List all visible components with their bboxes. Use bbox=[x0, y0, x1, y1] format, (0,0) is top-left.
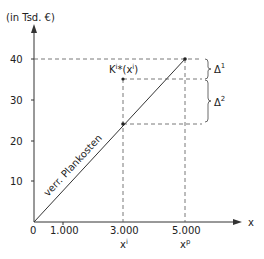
x-axis-arrow-icon bbox=[233, 219, 242, 225]
y-tick-30: 30 bbox=[10, 95, 23, 106]
brace-delta2 bbox=[205, 80, 211, 122]
plan-cost-line bbox=[34, 59, 185, 222]
point-xp bbox=[183, 57, 187, 61]
brace-delta1 bbox=[205, 59, 211, 79]
point-kix bbox=[121, 77, 124, 80]
point-xi bbox=[121, 122, 125, 126]
guide-lines bbox=[34, 59, 202, 222]
chart: (in Tsd. €) 40 30 20 10 0 1.000 3.000 5.… bbox=[0, 0, 264, 259]
y-tick-40: 40 bbox=[10, 54, 23, 65]
y-axis-arrow-icon bbox=[31, 24, 37, 33]
x-tick-0: 0 bbox=[30, 225, 36, 236]
x-tick-3000: 3.000 bbox=[110, 225, 139, 236]
x-tick-5000: 5.000 bbox=[172, 225, 201, 236]
y-tick-20: 20 bbox=[10, 136, 23, 147]
point-label-kix: Ki*(xi) bbox=[109, 63, 138, 75]
delta1-label: Δ1 bbox=[214, 62, 225, 75]
y-axis-label: (in Tsd. €) bbox=[6, 12, 55, 23]
line-label: verr. Plankosten bbox=[41, 132, 104, 198]
x-label-xi: xi bbox=[120, 238, 128, 250]
x-axis-label: x bbox=[248, 217, 254, 228]
delta2-label: Δ2 bbox=[214, 95, 225, 108]
y-tick-10: 10 bbox=[10, 176, 23, 187]
x-tick-1000: 1.000 bbox=[50, 225, 79, 236]
x-label-xp: xp bbox=[180, 238, 191, 250]
